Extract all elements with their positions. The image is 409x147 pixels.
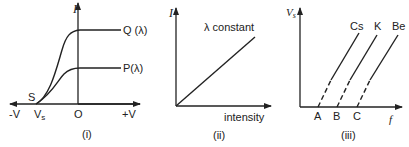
intercept-a-label: A	[314, 110, 322, 122]
photoelectric-diagrams: I Q (λ) P(λ) S -V Vs O +V (i) I λ consta…	[0, 0, 409, 147]
vs-label: Vs	[34, 108, 45, 122]
line-label: λ constant	[204, 21, 254, 33]
panel-iii: Vs Cs K Be A B C f (iii)	[286, 6, 405, 141]
line-k-extrapolation	[337, 80, 350, 107]
caption-iii: (iii)	[341, 129, 356, 141]
line-be-extrapolation	[357, 80, 370, 107]
caption-i: (i)	[82, 128, 92, 140]
panel-i: I Q (λ) P(λ) S -V Vs O +V (i)	[9, 2, 147, 140]
origin-label: O	[74, 108, 83, 120]
neg-v-label: -V	[9, 108, 21, 120]
y-axis-label: I	[72, 2, 78, 16]
cs-label: Cs	[350, 20, 364, 32]
intercept-c-label: C	[353, 110, 361, 122]
y-axis-label: I	[168, 6, 174, 20]
k-label: K	[374, 20, 382, 32]
be-label: Be	[392, 20, 405, 32]
line-be	[370, 35, 398, 80]
curve-q-label: Q (λ)	[123, 24, 147, 36]
curve-p-label: P(λ)	[123, 62, 143, 74]
pos-v-label: +V	[122, 108, 136, 120]
caption-ii: (ii)	[213, 129, 225, 141]
panel-ii: I λ constant intensity (ii)	[168, 6, 271, 141]
current-line	[176, 37, 255, 106]
line-cs-extrapolation	[318, 80, 331, 107]
x-axis-label: f	[389, 113, 394, 125]
y-axis-label: Vs	[286, 6, 296, 20]
x-axis-label: intensity	[224, 111, 265, 123]
point-s-label: S	[28, 91, 35, 103]
intercept-b-label: B	[333, 110, 340, 122]
